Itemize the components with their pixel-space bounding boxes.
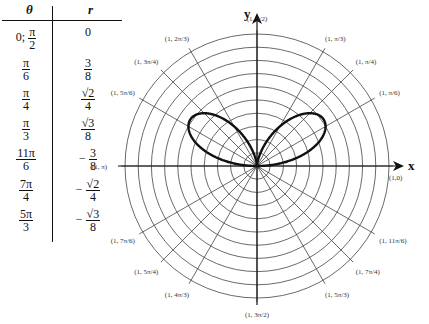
point-label: (1, 7π/4) (356, 268, 381, 276)
point-label: (1, 11π/6) (379, 237, 407, 245)
grid-spoke (161, 166, 257, 262)
point-label: (1, π/4) (356, 58, 377, 66)
grid-spoke (257, 166, 353, 262)
point-label: (1, π/6) (379, 89, 400, 97)
x-axis-label: x (408, 158, 415, 173)
grid-spoke (161, 70, 257, 166)
grid-spoke (257, 70, 353, 166)
point-label: (1, 7π/6) (111, 237, 136, 245)
polar-plot: x y (1, π/2)(1, π/3)(1, π/4)(1, π/6)(1,0… (0, 0, 429, 324)
point-label: (1, π) (92, 163, 108, 171)
point-label: (1,0) (389, 174, 403, 182)
point-label: (1, 5π/4) (134, 268, 159, 276)
point-label: (1, 3π/2) (245, 311, 270, 319)
point-label: (1, 2π/3) (165, 35, 190, 43)
point-label: (1, 5π/6) (111, 89, 136, 97)
point-label: (1, 4π/3) (165, 291, 190, 299)
point-label: (1, π/3) (325, 35, 346, 43)
point-label: (1, 3π/4) (134, 58, 159, 66)
point-label: (1, π/2) (247, 15, 268, 23)
point-label: (1, 5π/3) (325, 291, 350, 299)
